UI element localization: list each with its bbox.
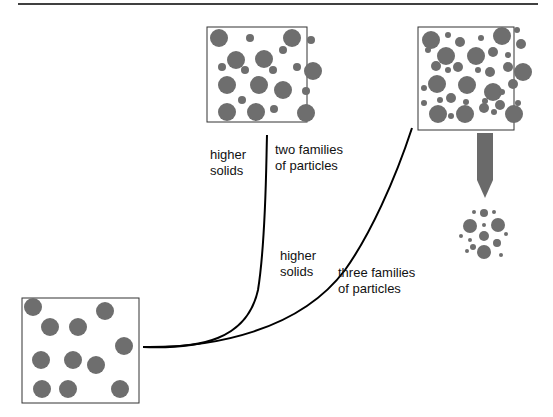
- particle: [468, 238, 472, 242]
- particle: [491, 218, 505, 232]
- particle: [493, 239, 501, 247]
- particle: [283, 29, 301, 47]
- particle: [255, 50, 273, 68]
- particle: [463, 219, 477, 233]
- particle: [492, 210, 496, 214]
- down-arrow-icon: [477, 133, 493, 198]
- particle: [488, 47, 498, 57]
- label-higher-solids-1: higher solids: [210, 147, 246, 179]
- particle: [32, 351, 50, 369]
- particle: [87, 356, 105, 374]
- particle: [448, 113, 454, 119]
- particle: [218, 63, 226, 71]
- particle: [445, 67, 451, 73]
- particle: [304, 62, 322, 80]
- particle: [480, 209, 488, 217]
- particle: [270, 105, 278, 113]
- particle: [475, 67, 481, 73]
- particle: [470, 244, 476, 250]
- particle: [279, 46, 287, 54]
- label-higher-solids-2: higher solids: [280, 248, 316, 280]
- particle: [425, 47, 431, 53]
- particle: [297, 104, 315, 122]
- particle: [491, 109, 497, 115]
- particle: [446, 93, 456, 103]
- particle: [274, 81, 292, 99]
- particle: [479, 231, 489, 241]
- particle: [241, 66, 249, 74]
- particle: [115, 337, 133, 355]
- particle: [455, 37, 465, 47]
- particle: [69, 318, 87, 336]
- particle: [246, 34, 254, 42]
- particle: [269, 66, 277, 74]
- label-three-families: three families of particles: [338, 265, 415, 297]
- particle: [238, 96, 246, 104]
- particle: [421, 85, 427, 91]
- particle: [431, 61, 441, 71]
- particle: [64, 351, 82, 369]
- particle: [445, 32, 451, 38]
- particle: [302, 87, 310, 95]
- particle: [218, 103, 236, 121]
- particle: [472, 210, 476, 214]
- particle: [453, 62, 463, 72]
- particle: [515, 100, 521, 106]
- particle: [24, 298, 42, 316]
- particle: [465, 249, 469, 253]
- particle: [504, 232, 508, 236]
- particle: [505, 105, 523, 123]
- particle: [421, 100, 427, 106]
- particle: [467, 47, 485, 65]
- label-two-families: two families of particles: [275, 142, 343, 174]
- particle: [485, 67, 495, 77]
- particle: [33, 380, 51, 398]
- particle: [227, 51, 245, 69]
- particle: [516, 39, 526, 49]
- particle: [59, 380, 77, 398]
- particle: [477, 245, 491, 259]
- particle: [218, 76, 236, 94]
- particle: [482, 98, 488, 104]
- particle: [503, 62, 513, 72]
- particle: [459, 234, 463, 238]
- particle: [307, 36, 315, 44]
- particle: [505, 52, 511, 58]
- particle: [422, 31, 440, 49]
- particle: [437, 47, 455, 65]
- particle: [514, 27, 520, 33]
- particle: [493, 27, 511, 45]
- diagram-canvas: [0, 0, 553, 417]
- particle: [495, 100, 505, 110]
- particle: [437, 97, 443, 103]
- particle: [463, 99, 469, 105]
- particle: [514, 63, 532, 81]
- particle: [293, 63, 301, 71]
- particle: [111, 380, 129, 398]
- particle: [458, 76, 476, 94]
- particle: [250, 76, 268, 94]
- particle: [210, 29, 228, 47]
- particle: [499, 89, 505, 95]
- particle: [96, 302, 114, 320]
- particle: [479, 103, 489, 113]
- particle: [456, 105, 474, 123]
- particle: [247, 103, 265, 121]
- particle: [508, 79, 518, 89]
- particle-cluster: [459, 209, 508, 259]
- particle: [499, 253, 503, 257]
- particle: [482, 223, 486, 227]
- particle: [428, 75, 446, 93]
- curve-to-two-families: [143, 135, 267, 347]
- particle: [429, 105, 447, 123]
- particle: [478, 35, 484, 41]
- particle: [41, 318, 59, 336]
